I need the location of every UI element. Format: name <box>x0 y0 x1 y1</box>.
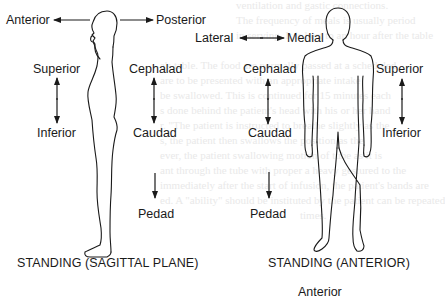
label-pedad: Pedad <box>138 207 174 221</box>
label-anterior: Anterior <box>6 13 50 27</box>
label-pedad-right: Pedad <box>250 207 286 221</box>
label-inferior: Inferior <box>37 126 76 140</box>
label-superior-right: Superior <box>376 62 423 76</box>
label-caudad-right: Caudad <box>248 126 292 140</box>
label-posterior: Posterior <box>156 13 206 27</box>
label-cephalad-right: Cephalad <box>243 62 297 76</box>
label-superior: Superior <box>33 62 80 76</box>
label-next-anterior: Anterior <box>298 285 342 299</box>
sagittal-body-outline <box>85 11 118 257</box>
label-medial: Medial <box>287 31 324 45</box>
label-lateral: Lateral <box>195 31 233 45</box>
label-cephalad: Cephalad <box>129 62 183 76</box>
label-caudad: Caudad <box>133 126 177 140</box>
label-inferior-right: Inferior <box>382 126 421 140</box>
caption-sagittal: STANDING (SAGITTAL PLANE) <box>17 256 198 270</box>
caption-anterior: STANDING (ANTERIOR) <box>268 256 410 270</box>
